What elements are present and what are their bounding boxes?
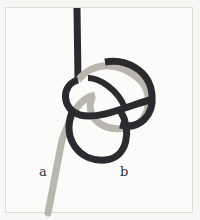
label-a: a: [39, 165, 47, 178]
knot-illustration: [0, 0, 200, 220]
figure-frame: a b: [0, 0, 200, 220]
light-rope-end: [48, 140, 62, 213]
dark-rope-standing: [77, 8, 78, 80]
label-b: b: [120, 165, 128, 178]
